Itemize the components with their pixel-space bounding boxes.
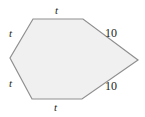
hexagon-outline — [10, 19, 138, 99]
edge-label-upper-right: 10 — [105, 27, 117, 39]
hexagon-shape — [0, 0, 145, 117]
edge-label-top: t — [55, 5, 58, 16]
edge-label-bottom: t — [54, 102, 57, 113]
edge-label-upper-left: t — [9, 28, 12, 39]
geometry-figure: t t t t 10 10 — [0, 0, 145, 117]
edge-label-lower-left: t — [9, 78, 12, 89]
edge-label-lower-right: 10 — [105, 80, 117, 92]
